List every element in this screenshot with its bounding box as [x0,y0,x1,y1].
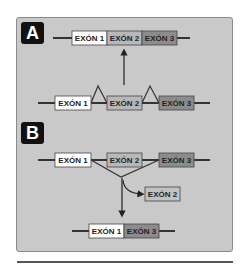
exon-3-label: EXÓN 3 [162,99,192,108]
excised-exon-2: EXÓN 2 [145,187,180,201]
exon-2-label: EXÓN 2 [110,34,140,43]
exon-2-label: EXÓN 2 [110,156,140,165]
panel-b-pre-mrna: EXÓN 1 EXÓN 2 EXÓN 3 [38,153,210,177]
curved-arrow-icon [123,180,141,194]
exon-2-label: EXÓN 2 [110,99,140,108]
panel-a-mrna: EXÓN 1 EXÓN 2 EXÓN 3 [53,31,190,45]
panel-a-pre-mrna: EXÓN 1 EXÓN 2 EXÓN 3 [38,86,210,110]
exon-1-label: EXÓN 1 [75,34,105,43]
splicing-diagram: EXÓN 1 EXÓN 2 EXÓN 3 EXÓN 1 EXÓN 2 EXÓN … [0,0,247,271]
panel-b-mrna: EXÓN 1 EXÓN 3 [72,224,175,238]
exon-1-label: EXÓN 1 [58,99,88,108]
exon-2-label: EXÓN 2 [148,190,178,199]
exon-1-label: EXÓN 1 [58,156,88,165]
bottom-rule [17,261,233,263]
exon-3-label: EXÓN 3 [127,227,157,236]
exon-1-label: EXÓN 1 [92,227,122,236]
exon-3-label: EXÓN 3 [145,34,175,43]
exon-3-label: EXÓN 3 [162,156,192,165]
